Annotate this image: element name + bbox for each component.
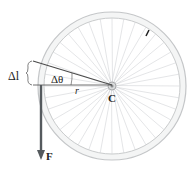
force-label: F: [46, 150, 53, 162]
arc-length-brace: [26, 61, 32, 85]
center-label: C: [108, 92, 116, 104]
wheel-diagram: Δl Δθ r C F: [0, 0, 195, 170]
arc-length-label: Δl: [8, 69, 20, 83]
radius-label: r: [75, 85, 79, 96]
force-arrow-head: [37, 150, 45, 160]
angle-label: Δθ: [51, 73, 63, 85]
